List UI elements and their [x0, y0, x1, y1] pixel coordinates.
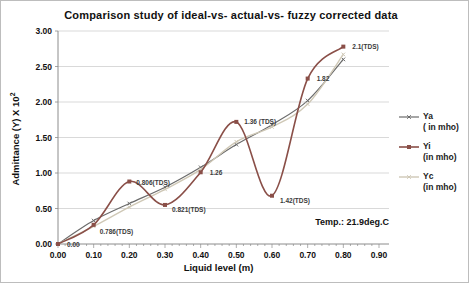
marker-yi — [92, 223, 96, 227]
marker-yc — [306, 102, 310, 106]
legend-ya-line2: ( in mho) — [423, 122, 459, 133]
y-tick-label: 1.50 — [35, 133, 52, 143]
data-label: 1.36 (TDS) — [244, 118, 276, 126]
marker-yi — [199, 170, 203, 174]
legend-swatch-svg — [398, 142, 423, 152]
data-label: 0.806(TDS) — [136, 179, 170, 187]
marker-yc — [342, 53, 346, 57]
y-axis-label-exponent: 2 — [9, 92, 16, 96]
chart-legend: Ya ( in mho) Yi (in mho) Yc (in mho) — [398, 111, 459, 201]
x-tick-label: 0.90 — [371, 250, 388, 260]
marker-yi — [127, 180, 131, 184]
legend-item-yi: Yi (in mho) — [398, 141, 459, 163]
legend-ya-line1: Ya — [423, 111, 459, 122]
y-tick-label: 1.00 — [35, 168, 52, 178]
temperature-annotation: Temp.: 21.9deg.C — [301, 217, 389, 227]
legend-marker-yi-icon — [398, 142, 423, 152]
y-tick-label: 2.00 — [35, 97, 52, 107]
legend-label-yc: Yc (in mho) — [423, 171, 457, 193]
data-label: 1.42(TDS) — [280, 197, 310, 205]
legend-yi-line1: Yi — [423, 141, 457, 152]
data-label: 1.82 — [317, 75, 330, 82]
y-tick-label: 2.50 — [35, 62, 52, 72]
y-axis-label-text: Admittance (Y) X 10 — [10, 96, 21, 185]
x-tick-label: 0.50 — [228, 250, 245, 260]
x-tick-label: 0.30 — [157, 250, 174, 260]
legend-label-ya: Ya ( in mho) — [423, 111, 459, 133]
series-yi — [56, 45, 345, 246]
x-axis-label: Liquid level (m) — [58, 262, 379, 273]
marker-ya — [342, 58, 346, 62]
y-tick-label: 3.00 — [35, 26, 52, 36]
marker-yi — [341, 45, 345, 49]
x-tick-label: 0.60 — [264, 250, 281, 260]
marker-yi — [270, 194, 274, 198]
series-line-yi — [58, 47, 343, 244]
legend-marker-yc-icon — [398, 172, 423, 182]
x-tick-label: 0.20 — [121, 250, 138, 260]
legend-item-ya: Ya ( in mho) — [398, 111, 459, 133]
data-label: 0.00 — [67, 241, 80, 248]
legend-yc-line1: Yc — [423, 171, 457, 182]
data-label: 2.1(TDS) — [352, 43, 378, 51]
data-label: 0.786(TDS) — [100, 228, 134, 236]
legend-marker-ya-icon — [398, 112, 423, 122]
marker-yi — [234, 120, 238, 124]
x-tick-label: 0.40 — [192, 250, 209, 260]
x-tick-label: 0.80 — [335, 250, 352, 260]
data-label: 1.26 — [210, 169, 223, 176]
y-tick-label: 0.50 — [35, 204, 52, 214]
legend-item-yc: Yc (in mho) — [398, 171, 459, 193]
x-tick-label: 0.00 — [50, 250, 67, 260]
marker-yi — [163, 203, 167, 207]
y-tick-label: 0.00 — [35, 239, 52, 249]
legend-yc-line2: (in mho) — [423, 182, 457, 193]
x-tick-label: 0.70 — [299, 250, 316, 260]
legend-yi-line2: (in mho) — [423, 152, 457, 163]
chart-figure: Comparison study of ideal-vs- actual-vs-… — [0, 0, 469, 283]
y-axis-label: Admittance (Y) X 102 — [9, 92, 21, 185]
legend-swatch-svg — [398, 112, 423, 122]
x-tick-label: 0.10 — [85, 250, 102, 260]
legend-swatch-svg — [398, 172, 423, 182]
data-label: 0.821(TDS) — [172, 206, 206, 214]
legend-label-yi: Yi (in mho) — [423, 141, 457, 163]
legend-marker — [407, 145, 411, 149]
marker-yi — [306, 77, 310, 81]
marker-yi — [56, 242, 60, 246]
